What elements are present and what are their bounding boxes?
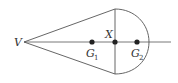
point-g2 — [134, 39, 139, 44]
point-g1 — [89, 39, 94, 44]
cone-hemisphere-diagram: V X G 1 G 2 — [0, 0, 178, 83]
cone-upper-edge — [24, 9, 115, 42]
label-v: V — [14, 36, 23, 49]
label-g1-subscript: 1 — [94, 54, 98, 62]
cone-lower-edge — [24, 42, 115, 74]
label-x: X — [104, 28, 114, 41]
hemisphere-arc — [115, 9, 149, 74]
label-g2-subscript: 2 — [139, 54, 143, 62]
point-x — [112, 39, 117, 44]
